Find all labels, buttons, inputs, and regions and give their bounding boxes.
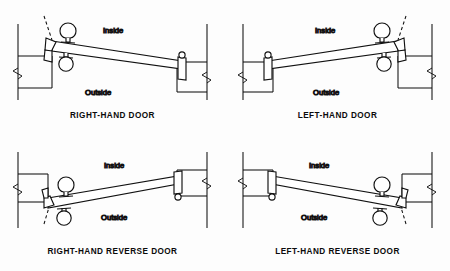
lock-stile-left [264, 57, 272, 80]
hinge-leaf-right [402, 188, 408, 198]
knob-inside [374, 177, 390, 192]
knob-outside [377, 57, 391, 71]
figure-right-hand-reverse-door: Inside Outside [0, 136, 225, 248]
left-hand-door-plan: Inside Outside [225, 0, 450, 112]
lock-stile-right [178, 57, 186, 80]
knob-inside-neck [380, 192, 384, 196]
panel-left-hand-reverse-door: Inside Outside LEFT-HAND REVERSE DOOR [225, 136, 450, 271]
left-hand-reverse-door-plan: Inside Outside [225, 136, 450, 248]
caption-right-hand-door: RIGHT-HAND DOOR [0, 111, 225, 120]
panel-right-hand-door: Inside Outside RIGHT-HAND DOOR [0, 0, 225, 135]
pivot-pin-right [175, 194, 181, 200]
pivot-pin-right [179, 52, 185, 58]
caption-left-hand-door: LEFT-HAND DOOR [225, 111, 450, 120]
outside-label: Outside [101, 213, 127, 222]
caption-left-hand-reverse-door: LEFT-HAND REVERSE DOOR [225, 247, 450, 256]
outside-label: Outside [301, 213, 327, 222]
outside-label: Outside [313, 88, 339, 97]
right-hand-reverse-door-plan: Inside Outside [0, 136, 225, 248]
inside-label: Inside [103, 26, 123, 35]
knob-inside [374, 23, 390, 38]
pivot-pin-left [269, 194, 275, 200]
inside-label: Inside [309, 161, 329, 170]
figure-left-hand-reverse-door: Inside Outside [225, 136, 450, 248]
lock-stile-right [174, 171, 182, 194]
inside-label: Inside [315, 26, 335, 35]
inside-label: Inside [104, 161, 124, 170]
figure-right-hand-door: Inside Outside [0, 0, 225, 112]
knob-outside [57, 211, 71, 225]
hinge-leaf-right [398, 50, 406, 62]
lock-stile-left [268, 171, 276, 194]
knob-outside [373, 211, 387, 225]
knob-inside-neck [380, 38, 384, 42]
panel-left-hand-door: Inside Outside LEFT-HAND DOOR [225, 0, 450, 135]
knob-inside-neck [66, 38, 70, 42]
pivot-pin-left [265, 52, 271, 58]
panel-right-hand-reverse-door: Inside Outside RIGHT-HAND REVERSE DOOR [0, 136, 225, 271]
knob-outside-rose [373, 208, 387, 209]
hinge-leaf-left [44, 50, 52, 62]
knob-outside-rose [57, 208, 71, 209]
diagram-sheet: Inside Outside RIGHT-HAND DOOR [0, 0, 450, 271]
knob-inside [60, 23, 76, 38]
knob-inside-neck [64, 192, 68, 196]
outside-label: Outside [85, 88, 111, 97]
knob-outside [59, 57, 73, 71]
caption-right-hand-reverse-door: RIGHT-HAND REVERSE DOOR [0, 247, 225, 256]
swing-direction-dashed-line [398, 16, 406, 40]
figure-left-hand-door: Inside Outside [225, 0, 450, 112]
knob-inside [58, 177, 74, 192]
right-hand-door-plan: Inside Outside [0, 0, 225, 112]
swing-direction-dashed-line [44, 16, 52, 40]
hinge-leaf-left [42, 188, 48, 198]
